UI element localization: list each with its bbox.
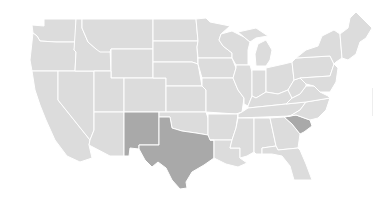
state-florida[interactable] [262, 146, 312, 180]
state-south-dakota[interactable] [153, 41, 198, 64]
map-canvas [0, 0, 376, 214]
map-edge-mark [372, 88, 373, 116]
us-choropleth-map [0, 0, 376, 214]
state-colorado[interactable] [124, 78, 166, 112]
state-arizona[interactable] [89, 112, 124, 156]
state-wyoming[interactable] [111, 49, 153, 78]
state-north-dakota[interactable] [153, 19, 198, 41]
state-iowa[interactable] [198, 58, 236, 78]
state-kansas[interactable] [166, 86, 206, 112]
state-new-england[interactable] [340, 12, 372, 60]
